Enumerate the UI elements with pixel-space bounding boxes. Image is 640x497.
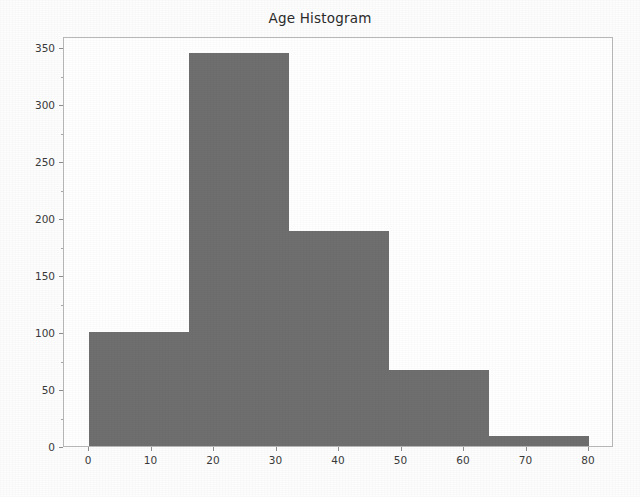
y-axis-tick	[59, 447, 63, 448]
histogram-bars	[64, 38, 612, 446]
x-axis-tick	[463, 447, 464, 451]
y-axis-minor-tick	[61, 248, 63, 249]
x-axis-tick	[276, 447, 277, 451]
histogram-bar	[489, 436, 589, 446]
y-axis-tick-label: 150	[9, 270, 55, 282]
y-axis-tick-label: 300	[9, 99, 55, 111]
y-axis-tick	[59, 105, 63, 106]
x-axis-tick	[588, 447, 589, 451]
x-axis-tick-label: 60	[443, 454, 483, 466]
chart-title: Age Histogram	[0, 10, 640, 26]
x-axis-tick	[151, 447, 152, 451]
histogram-bar	[289, 231, 389, 446]
x-axis-tick-label: 80	[568, 454, 608, 466]
y-axis-tick-label: 250	[9, 156, 55, 168]
histogram-bar	[389, 370, 489, 446]
x-axis-tick	[401, 447, 402, 451]
x-axis-tick-label: 20	[193, 454, 233, 466]
x-axis-tick	[526, 447, 527, 451]
histogram-bar	[89, 332, 189, 446]
y-axis-tick-label: 0	[9, 441, 55, 453]
y-axis-tick-label: 50	[9, 384, 55, 396]
x-axis-tick-label: 10	[131, 454, 171, 466]
y-axis-minor-tick	[61, 362, 63, 363]
y-axis-minor-tick	[61, 305, 63, 306]
y-axis-minor-tick	[61, 191, 63, 192]
y-axis-tick	[59, 390, 63, 391]
x-axis-tick	[213, 447, 214, 451]
y-axis-minor-tick	[61, 134, 63, 135]
y-axis-minor-tick	[61, 77, 63, 78]
y-axis-tick-label: 200	[9, 213, 55, 225]
y-axis-tick-label: 350	[9, 42, 55, 54]
x-axis-tick-label: 0	[68, 454, 108, 466]
x-axis-tick-label: 50	[381, 454, 421, 466]
x-axis-tick-label: 30	[256, 454, 296, 466]
y-axis-tick	[59, 333, 63, 334]
x-axis-tick-label: 40	[318, 454, 358, 466]
x-axis-tick	[338, 447, 339, 451]
y-axis-tick	[59, 276, 63, 277]
x-axis-tick	[88, 447, 89, 451]
x-axis-tick-label: 70	[506, 454, 546, 466]
histogram-bar	[189, 53, 289, 446]
y-axis-tick	[59, 219, 63, 220]
y-axis-minor-tick	[61, 419, 63, 420]
figure-canvas: Age Histogram 050100150200250300350 0102…	[0, 0, 640, 497]
plot-area	[63, 37, 613, 447]
y-axis-tick-label: 100	[9, 327, 55, 339]
y-axis-tick	[59, 48, 63, 49]
y-axis-tick	[59, 162, 63, 163]
